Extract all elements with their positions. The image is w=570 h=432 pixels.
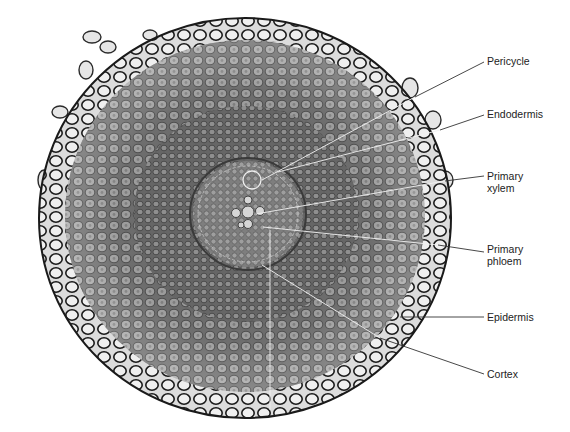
label-endodermis: Endodermis bbox=[487, 108, 543, 120]
label-pericycle: Pericycle bbox=[487, 55, 530, 67]
root-cross-section-figure bbox=[0, 0, 570, 432]
label-cortex: Cortex bbox=[487, 368, 518, 380]
root-section bbox=[39, 18, 451, 418]
label-primary-xylem: Primary xylem bbox=[487, 170, 523, 194]
label-epidermis: Epidermis bbox=[487, 311, 534, 323]
label-primary-phloem: Primary phloem bbox=[487, 243, 523, 267]
